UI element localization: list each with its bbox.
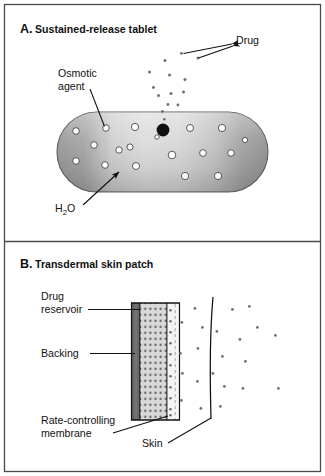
drug-callout: Drug [184, 34, 260, 58]
backing-label: Backing [41, 347, 79, 359]
panel-a: A. Sustained-release tablet [20, 22, 268, 217]
water-label-h: H [55, 202, 63, 214]
rate-controlling-label-line1: Rate-controlling [41, 414, 115, 426]
delivery-orifice [157, 124, 170, 137]
osmotic-agent-label-line1: Osmotic [58, 67, 98, 79]
water-label-o: O [67, 202, 75, 214]
panel-b-title: Transdermal skin patch [35, 258, 153, 270]
figure-canvas: A. Sustained-release tablet [0, 0, 325, 476]
transdermal-patch [132, 303, 180, 420]
skin-label: Skin [142, 437, 163, 449]
sustained-release-tablet [57, 112, 268, 192]
panel-b: B. Transdermal skin patch [20, 257, 280, 449]
panel-a-letter: A. [20, 22, 33, 36]
released-drug-particles [148, 52, 200, 121]
drug-label: Drug [236, 34, 259, 46]
drug-reservoir-label-line2: reservoir [41, 303, 83, 315]
rate-controlling-label-line2: membrane [41, 427, 92, 439]
patch-rate-controlling-membrane-layer [167, 303, 180, 420]
drug-reservoir-callout: Drug reservoir [41, 290, 140, 315]
skin-callout: Skin [142, 418, 211, 449]
figure-container: A. Sustained-release tablet [0, 0, 325, 476]
patch-drug-reservoir-layer [140, 303, 167, 420]
diffused-drug-particles [179, 305, 280, 410]
patch-backing-layer [132, 303, 141, 420]
backing-callout: Backing [41, 347, 135, 359]
osmotic-agent-label-line2: agent [58, 80, 85, 92]
panel-a-title: Sustained-release tablet [35, 23, 157, 35]
panel-b-letter: B. [20, 257, 33, 271]
drug-reservoir-label-line1: Drug [41, 290, 64, 302]
water-label: H2O [55, 202, 75, 217]
skin-curve [210, 297, 213, 419]
